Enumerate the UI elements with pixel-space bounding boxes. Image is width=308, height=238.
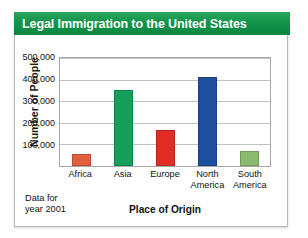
x-axis-tick-label-line: Africa [59, 169, 101, 180]
footnote-line-1: Data for [25, 193, 66, 204]
bar-africa [72, 154, 91, 166]
x-axis-tick-label-line: South [229, 169, 271, 180]
x-axis-tick-label-line: Europe [144, 169, 186, 180]
x-axis-tick-label-line: North [186, 169, 228, 180]
y-axis-tick-label: 100,000 [22, 140, 55, 150]
bar-slot [102, 58, 144, 166]
x-axis-tick-label-line: America [229, 180, 271, 191]
bar-slot [144, 58, 186, 166]
x-axis-tick-label: Asia [101, 169, 143, 190]
bar-slot [60, 58, 102, 166]
x-axis-tick-label-line: Asia [101, 169, 143, 180]
y-axis-tick-label: 200,000 [22, 118, 55, 128]
bar-slot [186, 58, 228, 166]
y-axis-tick-label: 500,000 [22, 52, 55, 62]
x-axis-tick-label: NorthAmerica [186, 169, 228, 190]
chart-body: Number of People 100,000200,000300,00040… [15, 36, 287, 226]
page-title: Legal Immigration to the United States [22, 17, 247, 31]
x-axis-tick-label: Africa [59, 169, 101, 190]
figure-card: Legal Immigration to the United States N… [14, 12, 288, 227]
y-axis-tick-label: 400,000 [22, 74, 55, 84]
bar-asia [114, 90, 133, 166]
plot-area [59, 57, 271, 167]
x-axis-title: Place of Origin [59, 204, 271, 215]
x-axis-tick-label: SouthAmerica [229, 169, 271, 190]
bar-south-america [240, 151, 259, 166]
bars-layer [60, 58, 270, 166]
x-axis-tick-label: Europe [144, 169, 186, 190]
y-axis-tick-label: 300,000 [22, 96, 55, 106]
bar-north-america [198, 77, 217, 166]
bar-europe [156, 130, 175, 166]
plot-wrapper: 100,000200,000300,000400,000500,000 [59, 57, 271, 167]
x-axis-tick-labels: AfricaAsiaEuropeNorthAmericaSouthAmerica [59, 169, 271, 190]
x-axis-tick-label-line: America [186, 180, 228, 191]
chart-title-banner: Legal Immigration to the United States [14, 12, 290, 35]
bar-slot [228, 58, 270, 166]
